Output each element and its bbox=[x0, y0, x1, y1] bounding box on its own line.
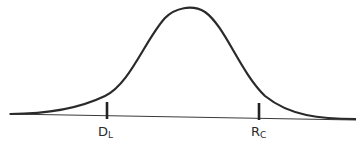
distribution-diagram bbox=[0, 0, 363, 144]
dl-label: DL bbox=[98, 124, 113, 140]
bell-curve bbox=[10, 8, 356, 119]
rc-label: RC bbox=[251, 124, 266, 140]
